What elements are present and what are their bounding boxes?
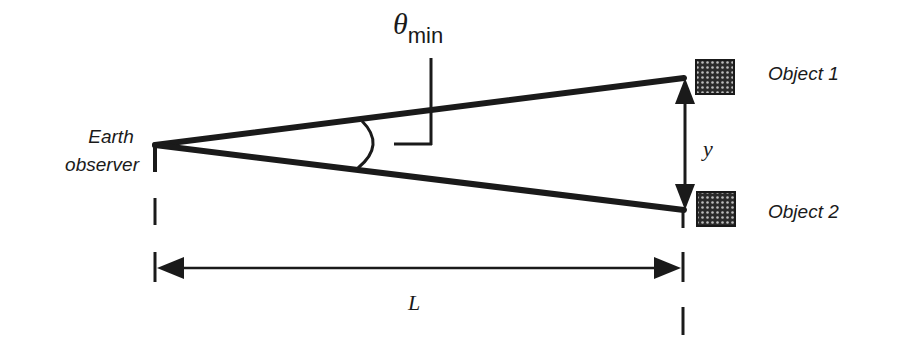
separation-label: y bbox=[701, 136, 713, 161]
sight-line-object-2 bbox=[155, 145, 684, 210]
arrowhead-up-icon bbox=[675, 78, 695, 104]
angle-arc bbox=[358, 121, 373, 168]
earth-observer-label: Earth observer bbox=[65, 126, 140, 175]
arrowhead-right-icon bbox=[654, 257, 681, 279]
arrowhead-left-icon bbox=[157, 257, 184, 279]
separation-arrow bbox=[675, 78, 695, 210]
object-1-label: Object 1 bbox=[768, 63, 839, 84]
object-2-icon bbox=[697, 192, 735, 226]
sight-line-object-1 bbox=[155, 78, 684, 145]
object-2-label: Object 2 bbox=[768, 201, 839, 222]
arrowhead-down-icon bbox=[675, 184, 695, 210]
object-1-icon bbox=[696, 60, 734, 94]
distance-label: L bbox=[407, 290, 420, 315]
theta-min-label: θmin bbox=[393, 7, 443, 48]
angular-resolution-diagram: θmin Earth observer y Object 1 Object 2 … bbox=[0, 0, 899, 356]
distance-arrow bbox=[157, 257, 681, 279]
theta-callout-leader bbox=[394, 58, 432, 145]
